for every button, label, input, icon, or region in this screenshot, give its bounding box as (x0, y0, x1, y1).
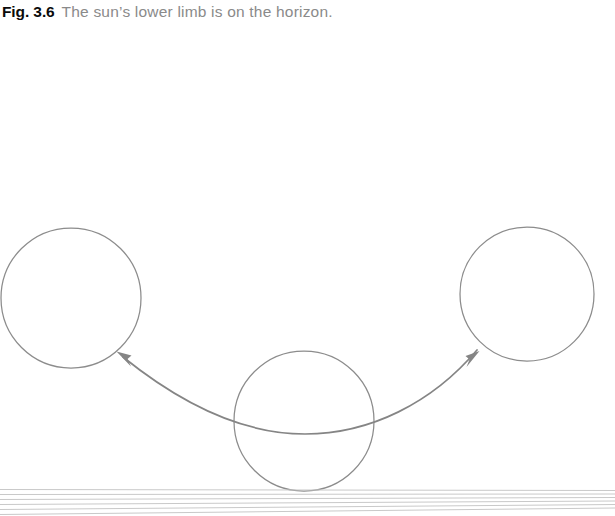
figure-root: Fig. 3.6The sun’s lower limb is on the h… (0, 0, 615, 516)
horizon-line-1 (0, 490, 615, 491)
arrowhead-right-icon (466, 351, 480, 367)
arrowhead-left-icon (117, 352, 132, 367)
sun-circle-middle (234, 351, 374, 491)
horizon-line-2 (0, 494, 615, 495)
horizon-line-3 (0, 498, 615, 500)
apparent-motion-arc (123, 350, 477, 434)
sun-circle-right (460, 227, 594, 361)
horizon-lines (0, 490, 615, 515)
sun-circle-left (1, 228, 141, 368)
sun-horizon-diagram (0, 0, 615, 516)
horizon-line-4 (0, 501, 615, 505)
